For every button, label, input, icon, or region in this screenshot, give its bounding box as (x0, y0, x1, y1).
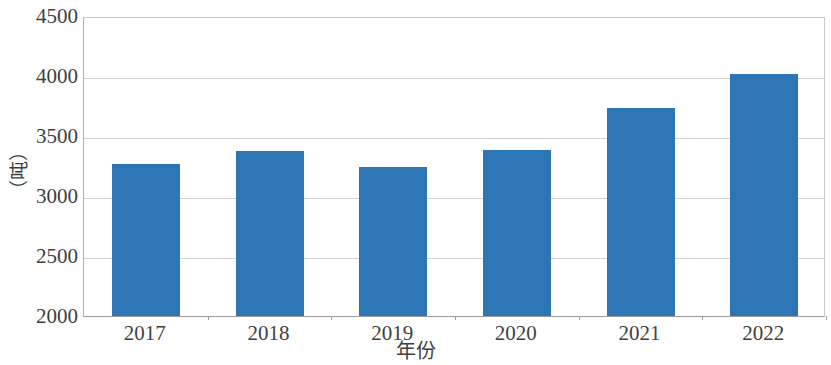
y-axis-tick-label: 4000 (6, 66, 78, 87)
x-axis-title: 年份 (0, 340, 831, 362)
y-axis-tick-label: 2500 (6, 246, 78, 267)
bars-layer (84, 18, 824, 316)
bar-chart: （吨） 200025003000350040004500 20172018201… (0, 0, 831, 365)
x-axis-title-label: 年份 (396, 339, 436, 363)
plot-area (83, 17, 825, 317)
bar (483, 150, 551, 316)
y-axis-tick-label: 3000 (6, 186, 78, 207)
x-axis-tick-mark (826, 316, 827, 320)
y-axis-tick-labels: 200025003000350040004500 (0, 0, 78, 365)
y-axis-tick-label: 3500 (6, 126, 78, 147)
bar (359, 167, 427, 316)
y-axis-tick-label: 4500 (6, 6, 78, 27)
bar (112, 164, 180, 316)
bar (236, 151, 304, 316)
y-axis-tick-label: 2000 (6, 306, 78, 327)
bar (607, 108, 675, 316)
bar (730, 74, 798, 316)
